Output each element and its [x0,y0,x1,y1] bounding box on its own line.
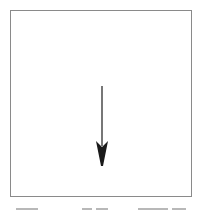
arrow-down-icon [0,0,200,213]
caption-fragment [172,208,186,210]
caption-fragment [96,208,108,210]
caption-fragment [82,208,92,210]
caption-fragment [16,208,38,210]
caption-truncated [0,206,200,213]
caption-fragment [138,208,168,210]
